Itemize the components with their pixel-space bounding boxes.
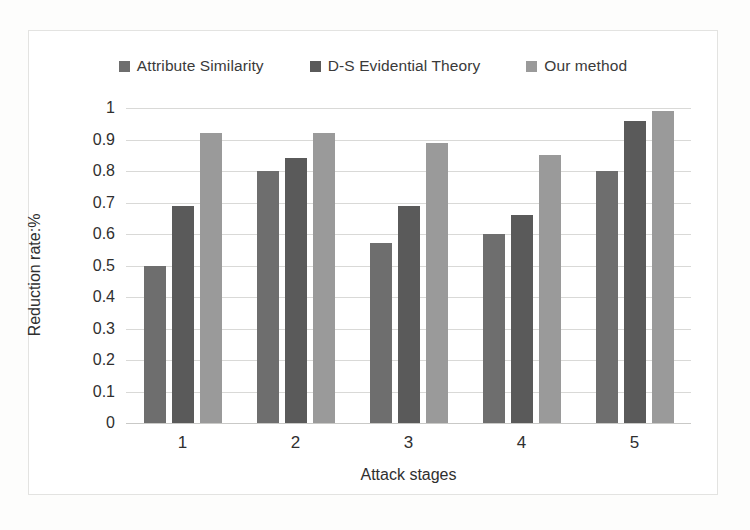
legend-swatch-icon (310, 61, 321, 72)
bar[interactable] (313, 133, 335, 423)
axis-baseline: 0 (126, 423, 691, 424)
bar-group: 3 (352, 108, 465, 423)
bar[interactable] (172, 206, 194, 423)
y-tick-label: 0.5 (93, 257, 115, 275)
y-tick-label: 0.2 (93, 351, 115, 369)
y-tick-label: 0.7 (93, 194, 115, 212)
y-tick-label: 0.1 (93, 383, 115, 401)
bar[interactable] (398, 206, 420, 423)
y-tick-label: 0.3 (93, 320, 115, 338)
bar[interactable] (200, 133, 222, 423)
y-tick-label: 0.9 (93, 131, 115, 149)
legend-swatch-icon (119, 61, 130, 72)
bar[interactable] (539, 155, 561, 423)
bar-groups: 12345 (126, 108, 691, 423)
y-tick-label: 0.4 (93, 288, 115, 306)
bar[interactable] (624, 121, 646, 423)
x-axis-title: Attack stages (126, 466, 691, 484)
x-tick-label: 2 (239, 433, 352, 453)
bar[interactable] (511, 215, 533, 423)
legend-item-attribute-similarity: Attribute Similarity (119, 57, 264, 75)
bar-group: 5 (578, 108, 691, 423)
bar[interactable] (370, 243, 392, 423)
plot-area: 10.90.80.70.60.50.40.30.20.10 12345 (126, 108, 691, 423)
bar[interactable] (144, 266, 166, 424)
legend-item-ds-evidential-theory: D-S Evidential Theory (310, 57, 481, 75)
y-axis-title: Reduction rate:% (22, 180, 48, 370)
legend-swatch-icon (526, 61, 537, 72)
legend-label: D-S Evidential Theory (328, 57, 481, 75)
bar[interactable] (483, 234, 505, 423)
y-tick-label: 0.6 (93, 225, 115, 243)
bar[interactable] (652, 111, 674, 423)
x-tick-label: 1 (126, 433, 239, 453)
y-axis-title-text: Reduction rate:% (26, 214, 44, 337)
bar-group: 2 (239, 108, 352, 423)
bar[interactable] (426, 143, 448, 423)
bar-group: 4 (465, 108, 578, 423)
bar[interactable] (257, 171, 279, 423)
legend-label: Attribute Similarity (137, 57, 264, 75)
y-tick-label: 0.8 (93, 162, 115, 180)
chart-legend: Attribute Similarity D-S Evidential Theo… (28, 52, 718, 80)
x-tick-label: 5 (578, 433, 691, 453)
y-tick-label: 1 (106, 99, 115, 117)
x-tick-label: 3 (352, 433, 465, 453)
legend-label: Our method (544, 57, 627, 75)
figure-root: Attribute Similarity D-S Evidential Theo… (0, 0, 750, 530)
bar[interactable] (285, 158, 307, 423)
legend-item-our-method: Our method (526, 57, 627, 75)
x-tick-label: 4 (465, 433, 578, 453)
bar[interactable] (596, 171, 618, 423)
bar-group: 1 (126, 108, 239, 423)
y-tick-label: 0 (106, 414, 115, 432)
